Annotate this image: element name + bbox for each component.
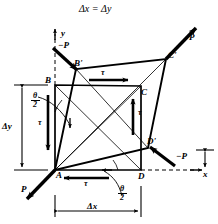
angle-label-theta-over-2-lower-right: θ 2: [115, 185, 129, 203]
vertex-label-d-prime: D': [147, 137, 156, 146]
force-arrow-p-lower-left: [27, 170, 55, 199]
vertex-label-b: B: [45, 76, 51, 85]
angle-denominator: 2: [28, 101, 42, 109]
force-label-minus-p-upper-left: −P: [58, 41, 69, 50]
diagram-canvas: [0, 0, 218, 224]
shear-deformation-figure: Δx = Δy y x B C A D B' C' D' P P −P −P τ…: [0, 0, 218, 224]
vertex-label-c: C: [141, 88, 147, 97]
vertex-label-a: A: [56, 171, 62, 180]
angle-label-theta-over-2-upper-left: θ 2: [28, 92, 42, 110]
figure-title: Δx = Δy: [79, 4, 111, 14]
tau-label-top: τ: [101, 69, 105, 77]
force-arrow-minus-p-lower-right: [150, 147, 175, 166]
tau-label-right: τ: [138, 109, 142, 117]
angle-arc-upper-left: [55, 100, 62, 112]
angle-denominator: 2: [115, 194, 129, 202]
parallelogram-diagonal-ac: [55, 59, 166, 170]
dimension-label-delta-y: Δy: [2, 122, 12, 131]
angle-leaders: [38, 97, 122, 196]
tau-label-left: τ: [38, 119, 42, 127]
angle-arc-lower-right: [113, 160, 118, 170]
y-axis-label: y: [61, 29, 65, 38]
angle-numerator: θ: [28, 92, 42, 100]
x-axis-label: x: [203, 170, 208, 179]
force-label-p-upper-right: P: [189, 33, 195, 42]
dimension-label-delta-x: Δx: [87, 202, 97, 211]
vertex-label-d: D: [138, 172, 145, 181]
angle-numerator: θ: [115, 185, 129, 193]
deformed-parallelogram: [55, 59, 166, 170]
vertex-label-b-prime: B': [74, 59, 83, 68]
tau-label-bottom: τ: [84, 180, 88, 188]
shear-stress-arrows: [48, 80, 133, 178]
force-label-minus-p-lower-right: −P: [176, 152, 187, 161]
force-label-p-lower-left: P: [21, 185, 27, 194]
vertex-label-c-prime: C': [168, 51, 177, 60]
